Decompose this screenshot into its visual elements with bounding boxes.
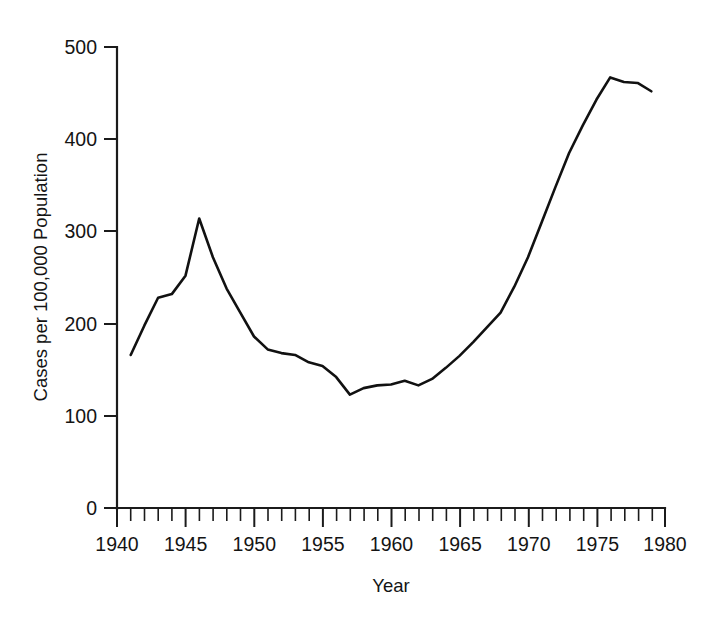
y-tick-label-200: 200 bbox=[64, 313, 97, 335]
line-chart-canvas: 500 400 300 200 100 0 1940 1945 1950 195… bbox=[0, 0, 712, 618]
x-tick-label-1965: 1965 bbox=[438, 533, 482, 555]
x-axis-title: Year bbox=[372, 575, 409, 596]
x-tick-label-1970: 1970 bbox=[507, 533, 551, 555]
x-tick-label-1980: 1980 bbox=[643, 533, 687, 555]
x-tick-label-1975: 1975 bbox=[576, 533, 620, 555]
x-axis-ticks bbox=[117, 508, 665, 527]
y-tick-label-0: 0 bbox=[86, 497, 97, 519]
y-tick-label-500: 500 bbox=[64, 36, 97, 58]
y-axis-ticks bbox=[104, 47, 117, 508]
data-series-line bbox=[131, 77, 652, 394]
y-tick-label-300: 300 bbox=[64, 220, 97, 242]
y-tick-label-100: 100 bbox=[64, 405, 97, 427]
x-tick-label-1950: 1950 bbox=[233, 533, 277, 555]
y-tick-label-400: 400 bbox=[64, 128, 97, 150]
x-tick-label-1945: 1945 bbox=[164, 533, 208, 555]
x-tick-label-1955: 1955 bbox=[301, 533, 345, 555]
x-tick-label-1940: 1940 bbox=[95, 533, 139, 555]
chart-figure: 500 400 300 200 100 0 1940 1945 1950 195… bbox=[0, 0, 712, 618]
y-axis-title: Cases per 100,000 Population bbox=[30, 153, 51, 402]
x-tick-label-1960: 1960 bbox=[370, 533, 414, 555]
